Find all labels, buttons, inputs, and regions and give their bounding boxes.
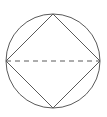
- circle-inscribed-square-figure: [0, 0, 107, 117]
- geometry-diagram: [0, 0, 107, 117]
